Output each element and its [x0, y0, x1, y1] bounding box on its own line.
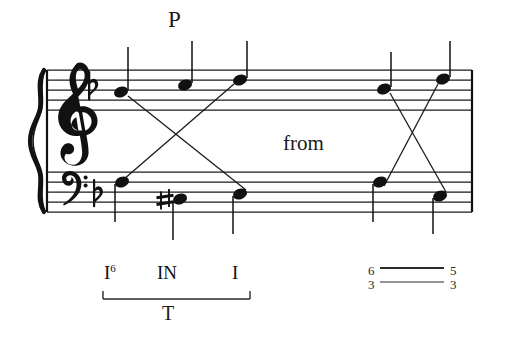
- note-t4: [375, 52, 392, 96]
- note-b3: [231, 187, 248, 234]
- roman-numeral-3: I: [232, 262, 238, 284]
- voice-leading-line: [116, 84, 234, 186]
- treble-staff-lines: [47, 70, 472, 110]
- roman-numeral-row: I6 IN I: [100, 262, 260, 288]
- bass-notes: [113, 175, 448, 240]
- figured-bass-right-top: 5: [450, 264, 457, 277]
- tonic-function-label: T: [162, 303, 174, 323]
- music-figure: P from I6 IN I T 6 3 5 3: [0, 0, 516, 340]
- roman-numeral-1: I6: [104, 262, 116, 284]
- note-t3: [231, 41, 248, 87]
- figured-bass-group: 6 3 5 3: [368, 264, 464, 298]
- bass-clef-icon: [62, 171, 88, 205]
- figured-bass-right-bottom: 3: [450, 278, 457, 291]
- treble-clef-icon: [58, 62, 97, 165]
- voice-leading-line: [390, 93, 446, 192]
- bass-key-signature-flat-icon: [93, 179, 103, 207]
- bass-staff-lines: [47, 172, 472, 212]
- note-t5: [434, 41, 451, 86]
- note-b4: [371, 175, 388, 222]
- note-b5: [431, 189, 448, 234]
- treble-key-signature-flat-icon: [88, 71, 98, 100]
- roman-numeral-2: IN: [157, 262, 177, 284]
- figured-bass-left-top: 6: [368, 264, 375, 277]
- note-b2: [171, 192, 188, 240]
- brace: [30, 70, 45, 212]
- note-t1: [112, 47, 129, 99]
- from-label: from: [283, 133, 324, 154]
- figured-bass-left-bottom: 3: [368, 278, 375, 291]
- note-t2: [176, 41, 193, 92]
- voice-leading-line: [384, 84, 438, 186]
- passing-tone-label: P: [168, 8, 181, 31]
- note-b1: [113, 175, 130, 222]
- roman-numeral-1-figure: 6: [110, 262, 116, 274]
- function-bracket: [103, 291, 250, 299]
- roman-numeral-2-text: IN: [157, 262, 177, 283]
- roman-numeral-3-text: I: [232, 262, 238, 283]
